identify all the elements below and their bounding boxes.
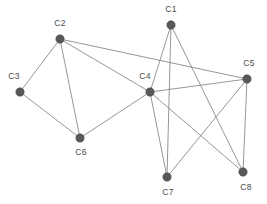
labels-layer: C1C2C3C4C5C6C7C8 [8, 4, 254, 197]
graph-edge-c1-c7 [167, 25, 171, 177]
graph-node-label-c7: C7 [162, 187, 173, 197]
graph-node-c3[interactable] [16, 88, 24, 96]
graph-edge-c4-c6 [80, 92, 150, 138]
graph-canvas: C1C2C3C4C5C6C7C8 [0, 0, 267, 204]
graph-node-c8[interactable] [239, 168, 247, 176]
graph-node-label-c5: C5 [243, 58, 254, 68]
graph-node-label-c4: C4 [139, 71, 150, 81]
graph-node-label-c1: C1 [165, 4, 176, 14]
graph-edge-c3-c6 [20, 92, 80, 138]
graph-node-c6[interactable] [76, 134, 84, 142]
graph-node-c4[interactable] [146, 88, 154, 96]
graph-node-c2[interactable] [56, 35, 64, 43]
graph-edge-c2-c5 [60, 39, 247, 79]
graph-edge-c5-c7 [167, 79, 247, 177]
graph-node-label-c3: C3 [8, 71, 19, 81]
graph-edge-c2-c6 [60, 39, 80, 138]
graph-node-label-c2: C2 [54, 18, 65, 28]
graph-edge-c1-c8 [171, 25, 243, 172]
graph-edge-c2-c4 [60, 39, 150, 92]
nodes-layer [16, 21, 251, 181]
graph-edge-c2-c3 [20, 39, 60, 92]
graph-edge-c5-c8 [243, 79, 247, 172]
graph-node-label-c6: C6 [75, 147, 86, 157]
network-graph-figure: C1C2C3C4C5C6C7C8 [0, 0, 267, 204]
graph-node-c5[interactable] [243, 75, 251, 83]
graph-node-c7[interactable] [163, 173, 171, 181]
graph-node-label-c8: C8 [240, 182, 251, 192]
graph-node-c1[interactable] [167, 21, 175, 29]
edges-layer [20, 25, 247, 177]
